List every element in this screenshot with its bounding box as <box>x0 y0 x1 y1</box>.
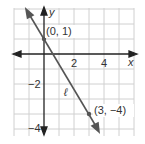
point-label-0-1: (0, 1) <box>46 25 72 37</box>
y-tick-neg4: −4 <box>28 122 41 134</box>
coordinate-plane: y x 2 4 −2 −4 ℓ (0, 1) (3, −4) <box>0 0 145 144</box>
y-axis-label: y <box>48 6 56 18</box>
x-axis-label: x <box>127 56 134 68</box>
x-tick-2: 2 <box>71 57 77 69</box>
line-label: ℓ <box>63 86 68 98</box>
y-tick-neg2: −2 <box>28 78 41 90</box>
point-label-3-neg4: (3, −4) <box>94 104 126 116</box>
x-tick-4: 4 <box>101 57 107 69</box>
point-3-neg4 <box>87 112 91 116</box>
